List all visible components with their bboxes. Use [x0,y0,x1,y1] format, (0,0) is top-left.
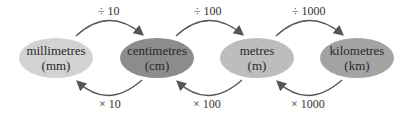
unit-name: metres [240,43,275,58]
divide-label-3: ÷ 1000 [292,4,326,19]
multiply-arrow-1 [78,80,142,96]
unit-metres: metres (m) [220,38,294,78]
unit-millimetres: millimetres (mm) [19,38,93,78]
unit-name: centimetres [127,43,187,58]
multiply-label-1: × 10 [99,97,121,112]
divide-arrow-1 [76,20,142,36]
multiply-arrow-2 [178,80,242,96]
divide-label-2: ÷ 100 [194,4,222,19]
divide-label-1: ÷ 10 [98,4,120,19]
unit-name: kilometres [330,43,385,58]
unit-abbr: (km) [344,58,369,73]
unit-abbr: (mm) [42,58,71,73]
multiply-label-3: × 1000 [291,97,325,112]
divide-arrow-2 [176,20,242,36]
divide-arrow-3 [276,20,342,36]
multiply-arrow-3 [278,80,342,96]
multiply-label-2: × 100 [193,97,221,112]
unit-abbr: (cm) [145,58,170,73]
unit-abbr: (m) [248,58,267,73]
unit-conversion-diagram: millimetres (mm) centimetres (cm) metres… [0,0,413,118]
unit-centimetres: centimetres (cm) [120,38,194,78]
unit-kilometres: kilometres (km) [320,38,394,78]
unit-name: millimetres [26,43,85,58]
